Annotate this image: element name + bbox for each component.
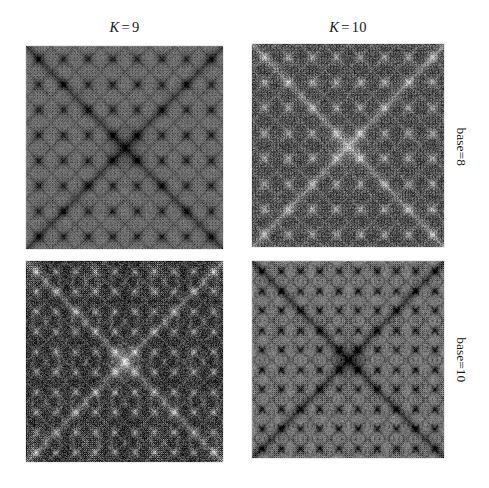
panel-k10-base10-image: [252, 261, 444, 458]
panel-k10-base8-image: [252, 44, 444, 247]
panel-k9-base10: [26, 261, 223, 462]
panel-k9-base8: [26, 46, 223, 249]
row-label-base10: base=10: [454, 325, 468, 395]
column-label-k9-operator: =: [119, 19, 131, 35]
column-label-k9-value: 9: [132, 19, 140, 35]
column-label-k10-symbol: K: [329, 19, 339, 35]
column-label-k9: K=9: [26, 20, 223, 35]
column-label-k9-symbol: K: [109, 19, 119, 35]
panel-k10-base8: [252, 44, 444, 247]
panel-k10-base10: [252, 261, 444, 458]
column-label-k10-operator: =: [339, 19, 351, 35]
column-label-k10: K=10: [252, 20, 444, 35]
panel-k9-base8-image: [26, 46, 223, 249]
figure-canvas: K=9 K=10 base=8 base=10: [0, 0, 489, 488]
column-label-k10-value: 10: [352, 19, 367, 35]
row-label-base8: base=8: [454, 112, 468, 182]
panel-k9-base10-image: [26, 261, 223, 462]
